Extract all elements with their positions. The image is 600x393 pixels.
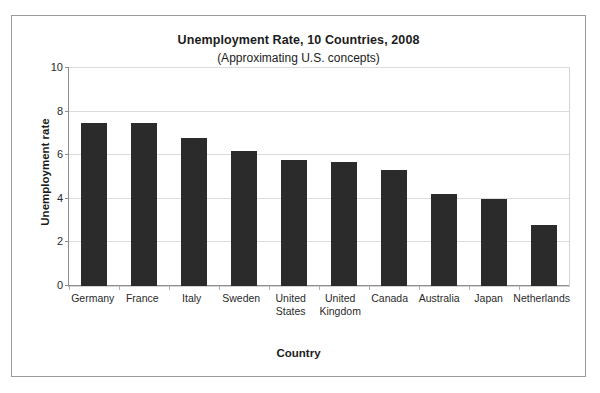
x-tick-mark — [219, 286, 220, 290]
category-label-france: France — [117, 292, 166, 317]
bar-slot — [319, 68, 369, 286]
bar-slot — [69, 68, 119, 286]
bar-canada[interactable] — [381, 170, 407, 286]
category-label-united-states: United States — [266, 292, 315, 317]
bar-slot — [219, 68, 269, 286]
x-tick-mark — [369, 286, 370, 290]
chart-title: Unemployment Rate, 10 Countries, 2008 — [12, 33, 585, 47]
bar-slot — [119, 68, 169, 286]
chart-subtitle: (Approximating U.S. concepts) — [12, 51, 585, 65]
category-label-australia: Australia — [414, 292, 463, 317]
category-label-netherlands: Netherlands — [513, 292, 570, 317]
bar-italy[interactable] — [181, 138, 207, 286]
bar-sweden[interactable] — [231, 151, 257, 286]
bar-netherlands[interactable] — [531, 225, 557, 286]
x-tick-mark — [269, 286, 270, 290]
bars-layer — [69, 68, 569, 286]
bar-slot — [519, 68, 569, 286]
category-label-canada: Canada — [365, 292, 414, 317]
category-label-united-kingdom: United Kingdom — [315, 292, 364, 317]
bar-france[interactable] — [131, 123, 157, 287]
y-tick-label: 0 — [57, 279, 63, 291]
x-tick-mark — [119, 286, 120, 290]
x-tick-mark — [419, 286, 420, 290]
bar-slot — [469, 68, 519, 286]
x-tick-mark — [469, 286, 470, 290]
y-tick-label: 10 — [51, 61, 63, 73]
y-tick-label: 6 — [57, 148, 63, 160]
category-label-italy: Italy — [167, 292, 216, 317]
x-tick-mark — [69, 286, 70, 290]
bar-germany[interactable] — [81, 123, 107, 287]
x-tick-mark — [519, 286, 520, 290]
bar-slot — [269, 68, 319, 286]
y-tick-label: 2 — [57, 235, 63, 247]
category-label-sweden: Sweden — [216, 292, 265, 317]
y-axis-title: Unemployment rate — [39, 87, 51, 257]
x-axis-title: Country — [12, 347, 585, 359]
x-tick-mark — [169, 286, 170, 290]
bar-united-states[interactable] — [281, 160, 307, 286]
bar-australia[interactable] — [431, 194, 457, 286]
bar-united-kingdom[interactable] — [331, 162, 357, 286]
figure-frame: Unemployment Rate, 10 Countries, 2008 (A… — [11, 15, 586, 377]
bar-slot — [419, 68, 469, 286]
y-tick-label: 4 — [57, 192, 63, 204]
plot-area: 0246810 — [68, 67, 570, 287]
bar-slot — [169, 68, 219, 286]
x-tick-mark — [319, 286, 320, 290]
category-label-germany: Germany — [68, 292, 117, 317]
bar-slot — [369, 68, 419, 286]
y-tick-label: 8 — [57, 105, 63, 117]
bar-japan[interactable] — [481, 199, 507, 286]
x-axis-category-labels: GermanyFranceItalySwedenUnited StatesUni… — [68, 292, 570, 317]
category-label-japan: Japan — [464, 292, 513, 317]
